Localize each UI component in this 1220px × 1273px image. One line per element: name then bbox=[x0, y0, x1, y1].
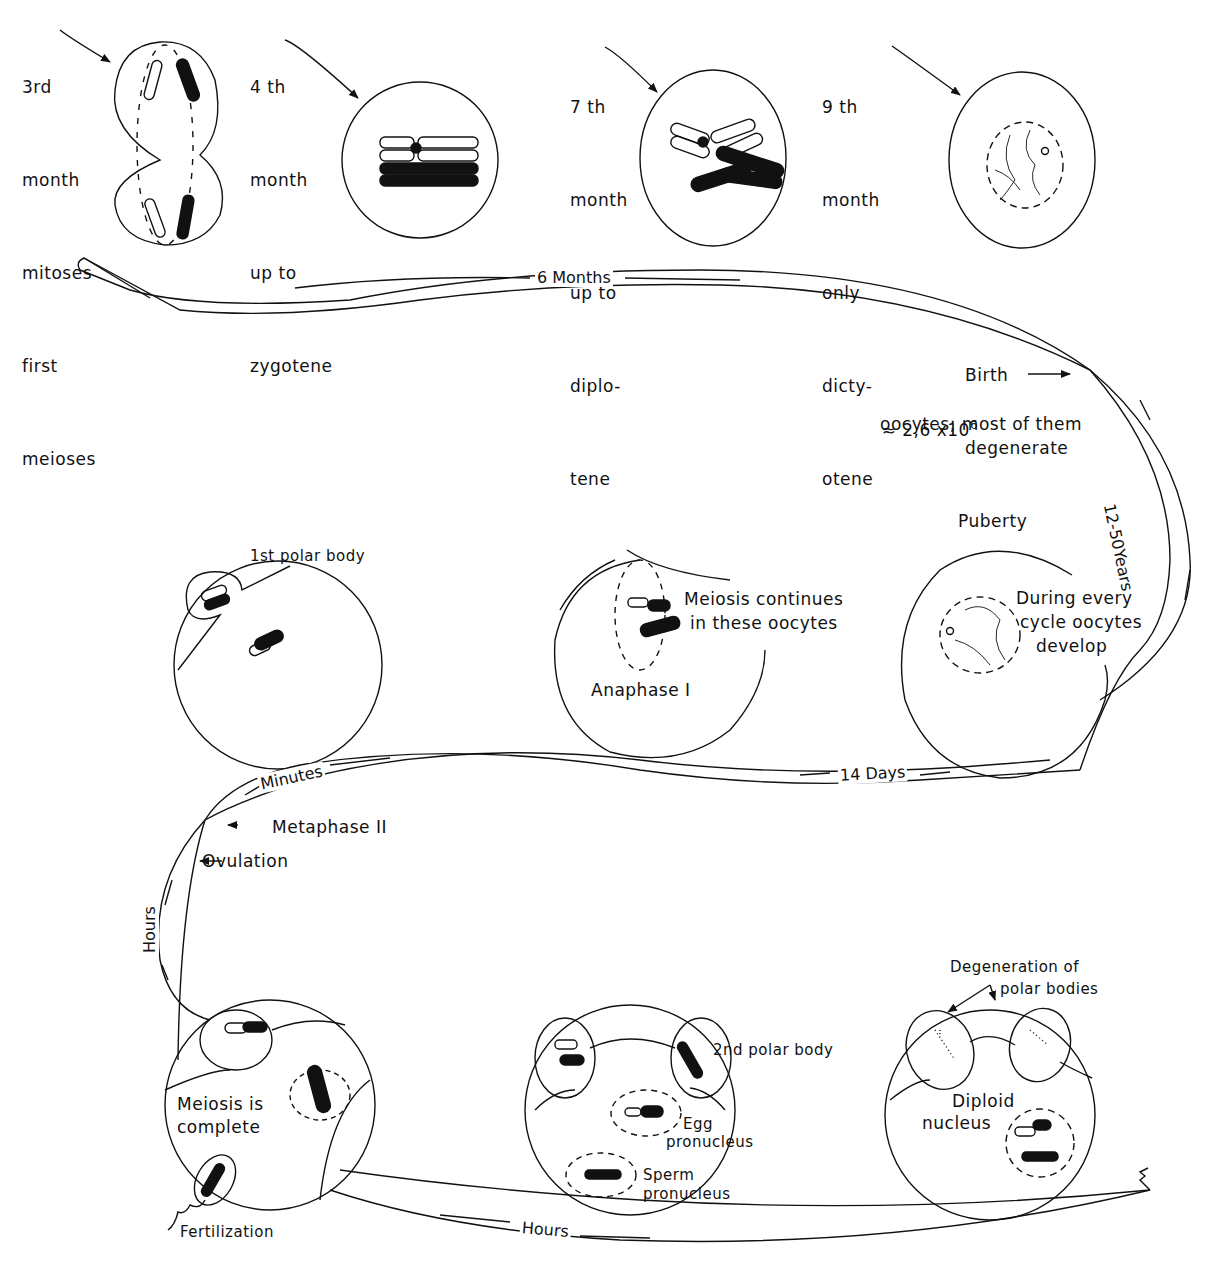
label-line: zygotene bbox=[250, 351, 333, 382]
label-egg-pronucleus-2: pronucleus bbox=[666, 1131, 754, 1153]
band-label-fourteen-days: 14 Days bbox=[838, 762, 908, 785]
band-label-hours-left: Hours bbox=[140, 904, 159, 955]
cell-7th-month bbox=[640, 70, 786, 246]
label-line: 9 th bbox=[822, 92, 880, 123]
label-meiosis-complete-2: complete bbox=[177, 1116, 260, 1138]
cell-meiosis-complete bbox=[165, 1000, 375, 1230]
cell-3rd-month bbox=[115, 42, 223, 245]
ribbon-days-minutes bbox=[205, 753, 1080, 820]
label-line: month bbox=[822, 185, 880, 216]
label-puberty: Puberty bbox=[958, 510, 1027, 532]
label-line: 7 th bbox=[570, 92, 628, 123]
label-4th-month: 4 th month up to zygotene bbox=[250, 10, 333, 444]
label-oocyte-note-1: oocytes; most of them bbox=[880, 413, 1082, 435]
label-line: month bbox=[570, 185, 628, 216]
label-fertilization: Fertilization bbox=[180, 1221, 274, 1243]
cell-9th-month bbox=[949, 72, 1095, 248]
label-7th-month: 7 th month up to diplo- tene bbox=[570, 30, 628, 557]
label-line: month bbox=[250, 165, 333, 196]
label-birth: Birth bbox=[965, 364, 1008, 386]
label-line: month bbox=[22, 165, 96, 196]
label-line: only bbox=[822, 278, 880, 309]
label-degeneration-2: polar bodies bbox=[1000, 978, 1098, 1000]
label-anaphase-one: Anaphase I bbox=[591, 679, 691, 701]
label-line: 4 th bbox=[250, 72, 333, 103]
label-puberty-note-1: During every bbox=[1016, 587, 1133, 609]
cell-first-polar-body bbox=[174, 561, 382, 769]
label-puberty-note-2: cycle oocytes bbox=[1020, 611, 1142, 633]
label-line: tene bbox=[570, 464, 628, 495]
ribbon-years bbox=[1080, 370, 1190, 770]
label-meiosis-continues-2: in these oocytes bbox=[690, 612, 838, 634]
label-9th-month: 9 th month only dicty- otene bbox=[822, 30, 880, 557]
label-line: diplo- bbox=[570, 371, 628, 402]
label-line: up to bbox=[250, 258, 333, 289]
label-puberty-note-3: develop bbox=[1036, 635, 1107, 657]
label-diploid-nucleus-1: Diploid bbox=[952, 1090, 1015, 1112]
label-line: mitoses bbox=[22, 258, 96, 289]
label-ovulation: Ovulation bbox=[202, 850, 288, 872]
label-3rd-month: 3rd month mitoses first meioses bbox=[22, 10, 96, 537]
label-degeneration-1: Degeneration of bbox=[950, 956, 1079, 978]
ribbon-hours-bottom bbox=[330, 1168, 1150, 1241]
label-meiosis-continues-1: Meiosis continues bbox=[684, 588, 843, 610]
label-sperm-pronucleus-2: pronucleus bbox=[643, 1183, 731, 1205]
label-line: 3rd bbox=[22, 72, 96, 103]
label-line: otene bbox=[822, 464, 880, 495]
label-oocyte-note-2: degenerate bbox=[965, 437, 1068, 459]
cell-puberty bbox=[902, 551, 1108, 778]
label-second-polar-body: 2nd polar body bbox=[713, 1039, 833, 1061]
cell-anaphase-one bbox=[555, 550, 765, 758]
label-meiosis-complete-1: Meiosis is bbox=[177, 1093, 264, 1115]
label-diploid-nucleus-2: nucleus bbox=[922, 1112, 991, 1134]
band-label-six-months: 6 Months bbox=[535, 268, 613, 287]
label-line: first bbox=[22, 351, 96, 382]
oogenesis-diagram: 3rd month mitoses first meioses 4 th mon… bbox=[0, 0, 1220, 1273]
label-metaphase-two: Metaphase II bbox=[272, 816, 387, 838]
cell-4th-month bbox=[342, 82, 498, 238]
label-line: meioses bbox=[22, 444, 96, 475]
label-first-polar-body: 1st polar body bbox=[250, 545, 365, 567]
